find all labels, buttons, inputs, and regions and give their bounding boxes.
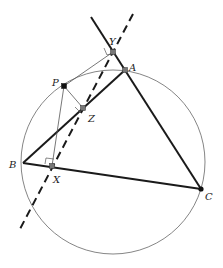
label-z: Z bbox=[87, 113, 96, 124]
perp-p-z bbox=[64, 86, 83, 108]
point-y bbox=[111, 50, 116, 55]
label-b: B bbox=[8, 159, 16, 170]
simson-line-diagram: Y A P Z B X C bbox=[0, 0, 223, 268]
perp-p-y bbox=[64, 52, 113, 86]
simson-line bbox=[20, 14, 133, 229]
label-c: C bbox=[205, 191, 213, 202]
point-x bbox=[50, 164, 55, 169]
point-p bbox=[62, 84, 67, 89]
point-c bbox=[198, 186, 203, 191]
label-x: X bbox=[52, 174, 61, 185]
point-z bbox=[81, 106, 86, 111]
label-y: Y bbox=[109, 36, 117, 47]
circumcircle bbox=[21, 70, 205, 254]
label-a: A bbox=[128, 62, 136, 73]
side-ca-extended bbox=[91, 17, 201, 189]
side-ab bbox=[23, 70, 125, 163]
point-a bbox=[123, 68, 128, 73]
label-p: P bbox=[51, 77, 59, 88]
